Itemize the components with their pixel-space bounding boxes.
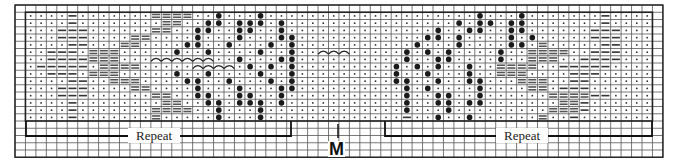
repeat-label-left: Repeat [128,128,180,143]
grid-lines [15,5,663,157]
repeat-label-right: Repeat [496,128,548,143]
center-marker-label: M [328,141,345,157]
